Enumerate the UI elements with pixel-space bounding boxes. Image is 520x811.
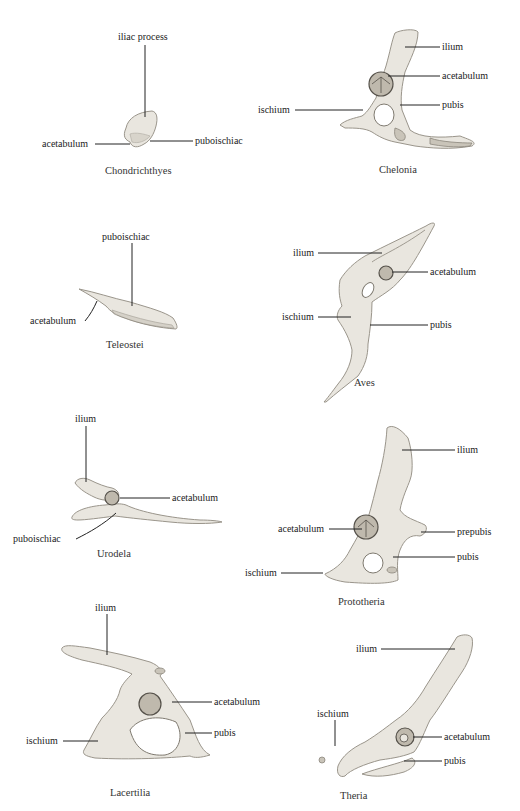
pelvic-girdle-illustrations — [0, 0, 520, 811]
label-ilium: ilium — [75, 413, 96, 425]
label-puboischiac: puboischiac — [195, 135, 243, 147]
label-ischium: ischium — [282, 311, 314, 323]
caption-lacertilia: Lacertilia — [110, 787, 150, 799]
label-ilium: ilium — [356, 643, 377, 655]
label-puboischiac: puboischiac — [13, 533, 61, 545]
label-prepubis: prepubis — [457, 526, 491, 538]
label-ischium: ischium — [317, 708, 349, 720]
aves-bone — [324, 223, 435, 402]
label-ischium: ischium — [26, 735, 58, 747]
label-acetabulum: acetabulum — [278, 523, 324, 535]
leader-acetabulum — [85, 301, 97, 321]
label-ilium: ilium — [457, 444, 478, 456]
label-pubis: pubis — [430, 319, 452, 331]
caption-aves: Aves — [354, 377, 375, 389]
label-acetabulum: acetabulum — [444, 731, 490, 743]
label-acetabulum: acetabulum — [430, 266, 476, 278]
label-ischium: ischium — [245, 567, 277, 579]
label-pubis: pubis — [444, 755, 466, 767]
label-acetabulum: acetabulum — [42, 138, 88, 150]
label-acetabulum: acetabulum — [172, 492, 218, 504]
label-ilium: ilium — [293, 247, 314, 259]
label-pubis: pubis — [457, 551, 479, 563]
label-pubis: pubis — [442, 99, 464, 111]
caption-teleostei: Teleostei — [106, 339, 144, 351]
label-iliac-process: iliac process — [118, 31, 168, 43]
caption-chondrichthyes: Chondrichthyes — [105, 165, 172, 177]
label-acetabulum: acetabulum — [442, 70, 488, 82]
caption-theria: Theria — [340, 790, 367, 802]
caption-chelonia: Chelonia — [379, 164, 417, 176]
teleostei-bone — [79, 289, 177, 329]
label-acetabulum: acetabulum — [30, 315, 76, 327]
label-ischium: ischium — [258, 104, 290, 116]
label-pubis: pubis — [214, 727, 236, 739]
caption-prototheria: Prototheria — [338, 596, 385, 608]
label-acetabulum: acetabulum — [214, 696, 260, 708]
caption-urodela: Urodela — [97, 548, 131, 560]
label-puboischiac: puboischiac — [102, 231, 150, 243]
label-ilium: ilium — [95, 602, 116, 614]
label-ilium: ilium — [442, 41, 463, 53]
